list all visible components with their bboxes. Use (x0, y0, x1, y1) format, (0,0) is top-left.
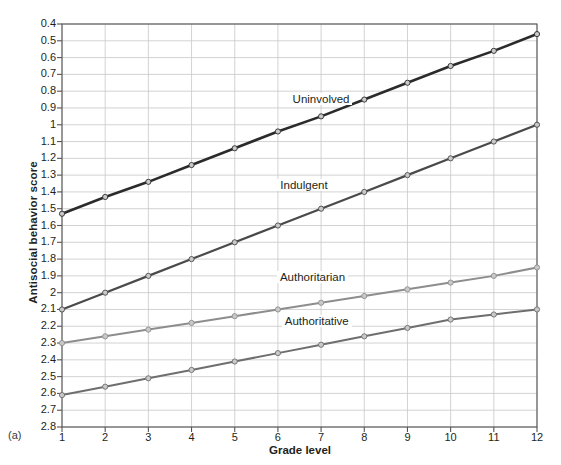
data-point-authoritarian (275, 307, 280, 312)
series-annotation-authoritarian: Authoritarian (277, 271, 348, 283)
data-point-authoritarian (362, 293, 367, 298)
data-point-authoritarian (534, 265, 539, 270)
data-point-uninvolved (275, 129, 280, 134)
data-point-uninvolved (491, 48, 496, 53)
data-point-authoritative (275, 351, 280, 356)
data-point-authoritarian (232, 314, 237, 319)
data-point-uninvolved (103, 194, 108, 199)
data-point-uninvolved (189, 162, 194, 167)
data-point-authoritative (318, 342, 323, 347)
data-point-authoritarian (448, 280, 453, 285)
data-point-authoritative (362, 334, 367, 339)
data-point-authoritative (59, 392, 64, 397)
data-point-authoritarian (491, 273, 496, 278)
data-point-uninvolved (318, 114, 323, 119)
data-point-authoritarian (59, 340, 64, 345)
data-point-authoritarian (146, 327, 151, 332)
data-point-uninvolved (59, 211, 64, 216)
data-point-authoritative (103, 384, 108, 389)
data-point-indulgent (189, 256, 194, 261)
data-point-authoritarian (103, 334, 108, 339)
data-point-authoritative (534, 307, 539, 312)
data-point-indulgent (362, 189, 367, 194)
data-point-indulgent (232, 240, 237, 245)
data-point-uninvolved (534, 31, 539, 36)
data-point-authoritative (405, 325, 410, 330)
series-annotation-indulgent: Indulgent (277, 179, 330, 191)
data-point-indulgent (448, 156, 453, 161)
data-point-authoritative (491, 312, 496, 317)
data-point-indulgent (275, 223, 280, 228)
data-point-indulgent (534, 122, 539, 127)
data-point-indulgent (146, 273, 151, 278)
series-annotation-authoritative: Authoritative (282, 315, 352, 327)
data-point-uninvolved (362, 97, 367, 102)
data-point-authoritarian (405, 287, 410, 292)
data-point-authoritative (232, 359, 237, 364)
data-point-authoritarian (318, 300, 323, 305)
plot-area (0, 0, 561, 465)
data-point-indulgent (103, 290, 108, 295)
axis-ticks (57, 24, 537, 432)
gridlines (62, 24, 537, 427)
data-point-indulgent (59, 307, 64, 312)
data-point-uninvolved (146, 179, 151, 184)
series-annotation-uninvolved: Uninvolved (290, 93, 353, 105)
data-point-indulgent (318, 206, 323, 211)
data-point-authoritative (146, 376, 151, 381)
data-point-indulgent (405, 173, 410, 178)
data-point-uninvolved (405, 80, 410, 85)
chart-figure: Antisocial behavior score Grade level (a… (0, 0, 561, 465)
data-point-authoritarian (189, 320, 194, 325)
data-point-indulgent (491, 139, 496, 144)
data-point-uninvolved (232, 146, 237, 151)
data-point-uninvolved (448, 63, 453, 68)
data-point-authoritative (448, 317, 453, 322)
data-point-authoritative (189, 367, 194, 372)
series-lines (62, 34, 537, 395)
